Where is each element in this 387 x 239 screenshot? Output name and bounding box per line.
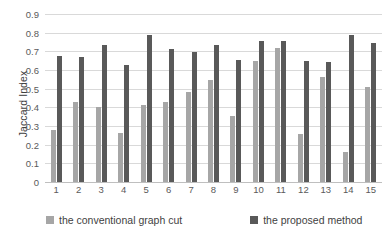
bar-group [157,14,179,182]
x-axis-tick-label: 1 [45,184,67,195]
x-axis-tick-label: 10 [247,184,269,195]
legend-label-conventional: the conventional graph cut [59,214,182,226]
bar [298,134,303,182]
y-axis-tick-label: 0.8 [26,27,39,38]
bar [192,52,197,182]
x-axis-tick-label: 7 [180,184,202,195]
x-axis-tick-label: 15 [360,184,382,195]
y-axis-tick-label: 0.3 [26,121,39,132]
bar [147,35,152,182]
x-axis-tick-label: 11 [270,184,292,195]
bar [169,49,174,182]
x-axis-tick-labels: 123456789101112131415 [45,184,382,195]
x-axis-tick-label: 13 [315,184,337,195]
bar-groups [45,14,382,182]
bar-group [225,14,247,182]
y-axis-tick-label: 0.1 [26,158,39,169]
bar-group [67,14,89,182]
bar [214,45,219,182]
bar [141,105,146,182]
chart-legend: the conventional graph cut the proposed … [45,214,382,226]
bar [57,56,62,182]
bar [365,87,370,182]
bar [208,80,213,182]
bar [236,60,241,182]
bar [343,152,348,182]
bar [124,65,129,182]
jaccard-index-bar-chart: Jaccard Index 0.90.80.70.60.50.40.30.20.… [0,0,387,239]
plot-area [45,14,382,182]
bar-group [135,14,157,182]
bar [186,92,191,182]
bar [163,102,168,182]
x-axis-tick-label: 12 [292,184,314,195]
bar-group [90,14,112,182]
gridline [45,182,382,183]
x-axis-tick-label: 6 [157,184,179,195]
bar-group [315,14,337,182]
x-axis-tick-label: 8 [202,184,224,195]
x-axis-tick-label: 14 [337,184,359,195]
bar [349,35,354,182]
bar-group [247,14,269,182]
y-axis-tick-label: 0.5 [26,83,39,94]
bar-group [270,14,292,182]
y-axis-tick-label: 0 [34,177,39,188]
bar [118,133,123,182]
bar [253,61,258,182]
bar [320,77,325,182]
bar [73,102,78,182]
y-axis-tick-labels: 0.90.80.70.60.50.40.30.20.10 [0,14,45,182]
bar-group [45,14,67,182]
bar [326,62,331,182]
legend-item-proposed: the proposed method [250,214,362,226]
legend-label-proposed: the proposed method [263,214,362,226]
legend-swatch-icon-conventional [46,216,54,224]
bar [281,41,286,182]
bar [259,41,264,182]
bar [371,43,376,182]
bar [51,130,56,182]
x-axis-tick-label: 9 [225,184,247,195]
bar-group [337,14,359,182]
bar [230,116,235,182]
x-axis-tick-label: 5 [135,184,157,195]
bar-group [180,14,202,182]
x-axis-tick-label: 2 [67,184,89,195]
y-axis-tick-label: 0.6 [26,65,39,76]
legend-swatch-icon-proposed [250,216,258,224]
bar-group [202,14,224,182]
bar-group [360,14,382,182]
bar [96,107,101,182]
legend-item-conventional: the conventional graph cut [46,214,182,226]
x-axis-tick-label: 3 [90,184,112,195]
bar [275,48,280,182]
bar [304,61,309,182]
y-axis-tick-label: 0.2 [26,139,39,150]
bar [102,45,107,182]
bar-group [292,14,314,182]
bar [79,57,84,182]
x-axis-tick-label: 4 [112,184,134,195]
y-axis-tick-label: 0.4 [26,102,39,113]
y-axis-tick-label: 0.7 [26,46,39,57]
bar-group [112,14,134,182]
y-axis-tick-label: 0.9 [26,9,39,20]
